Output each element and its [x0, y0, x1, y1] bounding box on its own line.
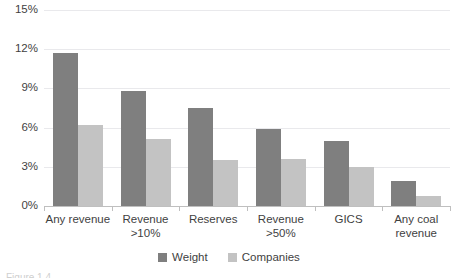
bar-group: [112, 10, 180, 206]
x-axis-tick: [44, 206, 45, 211]
bar-weight[interactable]: [256, 129, 281, 206]
bar-companies[interactable]: [146, 139, 171, 206]
bar-group: [179, 10, 247, 206]
x-axis-tick: [112, 206, 113, 211]
x-tick-label: Revenue >10%: [112, 212, 180, 240]
y-tick-label: 15%: [2, 4, 38, 16]
y-tick-label: 6%: [2, 122, 38, 134]
bar-weight[interactable]: [188, 108, 213, 206]
x-tick-label: Reserves: [179, 212, 247, 240]
bar-weight[interactable]: [53, 53, 78, 206]
legend-label: Companies: [242, 252, 300, 264]
x-axis-tick: [247, 206, 248, 211]
bar-weight[interactable]: [324, 141, 349, 206]
bar-weight[interactable]: [121, 91, 146, 206]
y-tick-label: 0%: [2, 200, 38, 212]
x-axis-tick: [382, 206, 383, 211]
x-tick-label: Any revenue: [44, 212, 112, 240]
chart-legend: WeightCompanies: [0, 252, 458, 264]
bar-group: [382, 10, 450, 206]
x-tick-label: Revenue >50%: [247, 212, 315, 240]
bar-companies[interactable]: [281, 159, 306, 206]
bar-groups: [44, 10, 450, 206]
x-tick-label: GICS: [315, 212, 383, 240]
bar-companies[interactable]: [78, 125, 103, 206]
legend-swatch-icon: [228, 253, 237, 262]
y-tick-label: 12%: [2, 43, 38, 55]
legend-label: Weight: [172, 252, 208, 264]
legend-item-weight[interactable]: Weight: [158, 252, 208, 264]
bar-group: [315, 10, 383, 206]
bar-companies[interactable]: [416, 196, 441, 206]
x-axis-tick: [450, 206, 451, 211]
bar-weight[interactable]: [391, 181, 416, 206]
x-axis-tick: [179, 206, 180, 211]
x-tick-label: Any coal revenue: [382, 212, 450, 240]
x-axis-tick: [315, 206, 316, 211]
bar-group: [44, 10, 112, 206]
legend-item-companies[interactable]: Companies: [228, 252, 300, 264]
bar-group: [247, 10, 315, 206]
y-tick-label: 3%: [2, 161, 38, 173]
bar-companies[interactable]: [349, 167, 374, 206]
bar-chart: Any revenueRevenue >10%ReservesRevenue >…: [0, 0, 458, 278]
x-axis-labels: Any revenueRevenue >10%ReservesRevenue >…: [44, 212, 450, 240]
y-tick-label: 9%: [2, 83, 38, 95]
caption-fragment: Figure 1.4: [6, 272, 51, 278]
legend-swatch-icon: [158, 253, 167, 262]
bar-companies[interactable]: [213, 160, 238, 206]
